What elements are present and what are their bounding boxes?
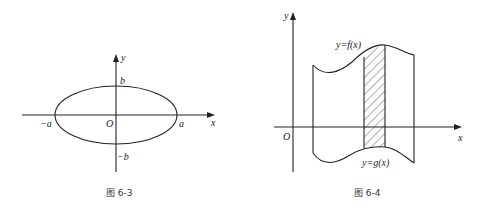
- x-axis-label: x: [210, 117, 216, 128]
- figures-canvas: y x O a −a b −b 图 6-3 y x O y=f(x) y=g(x…: [0, 0, 480, 214]
- upper-curve-label: y=f(x): [335, 39, 362, 51]
- lower-curve-label: y=g(x): [361, 157, 390, 169]
- y-axis-arrow-icon: [113, 54, 119, 62]
- figure-6-3: y x O a −a b −b 图 6-3: [22, 52, 216, 198]
- hatched-strip: [364, 45, 385, 148]
- x-axis-label: x: [457, 132, 463, 143]
- label-neg-a: −a: [40, 118, 52, 129]
- label-b: b: [120, 75, 125, 86]
- origin-label: O: [283, 131, 290, 142]
- label-a: a: [179, 118, 184, 129]
- y-axis-arrow-icon: [290, 12, 296, 20]
- caption-6-4: 图 6-4: [354, 188, 381, 198]
- y-axis-label: y: [120, 52, 126, 63]
- x-axis-arrow-icon: [454, 124, 462, 130]
- caption-6-3: 图 6-3: [106, 188, 133, 198]
- label-neg-b: −b: [117, 151, 129, 162]
- y-axis-label: y: [283, 10, 289, 21]
- origin-label: O: [106, 118, 113, 129]
- figure-6-4: y x O y=f(x) y=g(x) 图 6-4: [274, 10, 463, 198]
